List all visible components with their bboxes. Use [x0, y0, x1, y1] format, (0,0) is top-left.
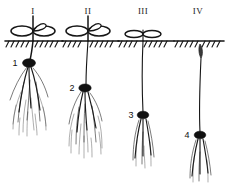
soil-line-iii	[118, 41, 174, 47]
seedling-diagram-svg: I	[0, 0, 227, 189]
hypocotyl-ii	[86, 41, 88, 85]
seed-i	[23, 59, 36, 67]
hypocotyl-iii	[142, 41, 143, 112]
seed-iv	[194, 131, 206, 139]
panel-numeral-iii: III	[138, 6, 148, 16]
soil-hatching-iv	[175, 41, 220, 47]
root-system-i	[10, 67, 48, 136]
soil-line-i	[5, 41, 63, 47]
hypocotyl-iv	[200, 58, 201, 132]
botanical-figure: I	[0, 0, 227, 189]
seed-iii	[137, 111, 149, 119]
seed-ii	[79, 84, 91, 92]
panel-i: I	[5, 6, 63, 136]
soil-line-ii	[62, 41, 119, 47]
panel-iv: IV 4	[174, 6, 224, 182]
root-system-iii	[133, 119, 154, 168]
hypocotyl-i	[30, 41, 33, 60]
panel-numeral-i: I	[31, 6, 34, 16]
seed-label-1: 1	[12, 58, 17, 68]
seed-label-2: 2	[69, 83, 74, 93]
panel-iii: III	[118, 6, 174, 168]
panel-numeral-ii: II	[85, 6, 92, 16]
root-system-ii	[69, 92, 102, 158]
seed-label-3: 3	[128, 110, 133, 120]
panel-ii: II	[62, 6, 119, 158]
panel-numeral-iv: IV	[193, 6, 203, 16]
seed-label-4: 4	[184, 130, 189, 140]
root-system-iv	[190, 139, 211, 182]
